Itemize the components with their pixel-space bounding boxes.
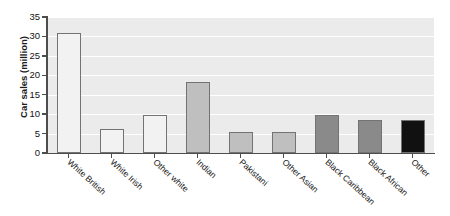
y-tick-label: 25 <box>14 51 40 61</box>
y-tick-label: 10 <box>14 109 40 119</box>
x-tick-mark <box>240 154 241 158</box>
y-tick-label: 5 <box>14 129 40 139</box>
y-tick-mark <box>42 36 47 37</box>
y-tick-mark <box>42 55 47 56</box>
x-label-pakistani: Pakistani <box>237 157 270 188</box>
gridline <box>47 56 434 57</box>
y-tick-label: 35 <box>14 12 40 22</box>
bar-other-white <box>143 115 167 154</box>
bar-chart-figure: Car sales (million) 05101520253035 White… <box>0 0 450 216</box>
x-tick-mark <box>283 154 284 158</box>
y-tick-mark <box>42 75 47 76</box>
x-tick-mark <box>369 154 370 158</box>
y-tick-label: 0 <box>14 148 40 158</box>
bar-black-caribbean <box>315 115 339 154</box>
gridline <box>47 17 434 18</box>
bar-pakistani <box>229 132 253 153</box>
x-tick-mark <box>111 154 112 158</box>
gridline <box>47 114 434 115</box>
y-tick-label: 20 <box>14 70 40 80</box>
bar-white-irish <box>100 129 124 153</box>
gridline <box>47 95 434 96</box>
y-tick-label: 15 <box>14 90 40 100</box>
x-tick-mark <box>154 154 155 158</box>
y-tick-mark <box>42 16 47 17</box>
bar-white-british <box>57 33 81 154</box>
y-tick-mark <box>42 133 47 134</box>
gridline <box>47 36 434 37</box>
x-tick-mark <box>412 154 413 158</box>
y-tick-mark <box>42 113 47 114</box>
x-label-black-african: Black African <box>366 157 410 198</box>
bar-black-african <box>358 120 382 153</box>
bar-other-asian <box>272 132 296 153</box>
x-label-other-asian: Other Asian <box>280 157 320 194</box>
x-label-other-white: Other white <box>151 157 190 194</box>
x-label-white-british: White British <box>65 157 108 197</box>
y-tick-mark <box>42 94 47 95</box>
y-tick-label: 30 <box>14 31 40 41</box>
bar-indian <box>186 82 210 153</box>
x-label-white-irish: White Irish <box>108 157 145 192</box>
y-tick-mark <box>42 152 47 153</box>
x-label-other: Other <box>409 157 432 179</box>
x-tick-mark <box>68 154 69 158</box>
bar-other <box>401 120 425 153</box>
x-label-indian: Indian <box>194 157 218 180</box>
x-tick-mark <box>326 154 327 158</box>
gridline <box>47 75 434 76</box>
x-tick-mark <box>197 154 198 158</box>
